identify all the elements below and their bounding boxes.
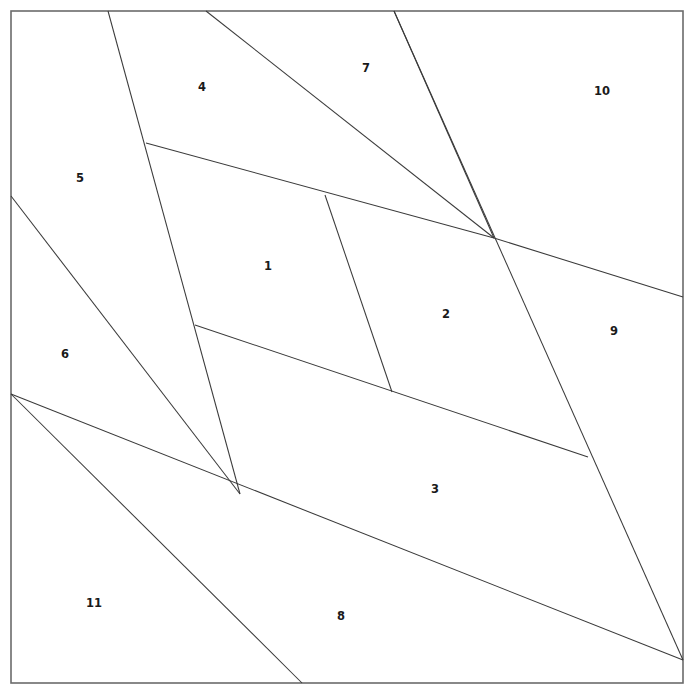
region-label-5: 5 bbox=[76, 171, 84, 185]
region-label-2: 2 bbox=[442, 307, 450, 321]
diagram-frame bbox=[11, 11, 683, 683]
region-label-1: 1 bbox=[264, 259, 272, 273]
region-label-8: 8 bbox=[337, 609, 345, 623]
region-label-3: 3 bbox=[431, 482, 439, 496]
region-label-10: 10 bbox=[594, 84, 610, 98]
region-label-6: 6 bbox=[61, 347, 69, 361]
region-label-7: 7 bbox=[362, 61, 370, 75]
region-label-9: 9 bbox=[610, 324, 618, 338]
partition-canvas: 1234567891011 bbox=[0, 0, 693, 696]
region-label-11: 11 bbox=[86, 596, 102, 610]
partition-diagram: 1234567891011 bbox=[0, 0, 693, 696]
region-label-4: 4 bbox=[198, 80, 206, 94]
